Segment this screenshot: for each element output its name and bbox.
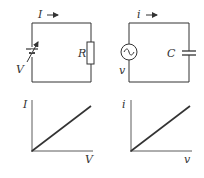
x-axis-label: v [184,153,191,166]
diagram-canvas: I V R i v C I V i v [0,0,204,178]
capacitor-label: C [167,47,176,60]
resistor-icon [87,42,94,64]
ac-source-icon [121,44,137,60]
resistor-label: R [77,47,86,60]
current-label: i [137,8,141,21]
source-label: v [119,64,126,77]
data-line [32,106,91,151]
y-axis-label: i [122,98,126,111]
y-axis-label: I [22,98,28,111]
capacitor-icon [182,51,196,55]
ac-graph [130,100,192,152]
ac-circuit [121,15,196,82]
dc-graph [31,100,93,152]
source-label: V [16,63,25,76]
data-line [131,106,190,151]
x-axis-label: V [85,153,94,166]
current-label: I [37,8,43,21]
